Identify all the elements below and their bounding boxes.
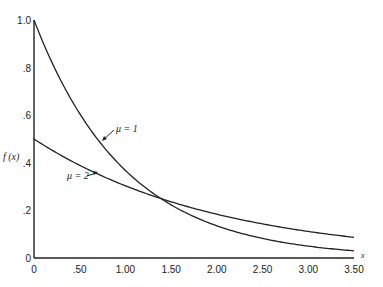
y-tick-label: .6 <box>23 110 32 121</box>
annotation-mu1: μ = 1 <box>115 123 138 134</box>
x-tick-label: 0 <box>31 264 37 275</box>
curve-mu-2 <box>34 139 354 237</box>
y-tick-label: .8 <box>23 63 32 74</box>
annotation-arrows <box>87 130 114 176</box>
y-tick-label: 1.0 <box>17 15 31 26</box>
x-tick-label: 1.50 <box>161 264 181 275</box>
x-tick-label: .50 <box>73 264 87 275</box>
curves <box>34 20 354 251</box>
tick-labels: 0.501.001.502.002.503.003.500.2.4.6.81.0 <box>17 15 364 275</box>
x-tick-label: 2.50 <box>253 264 273 275</box>
x-tick-label: 3.00 <box>299 264 319 275</box>
x-tick-label: 2.00 <box>207 264 227 275</box>
x-axis-label: x <box>360 251 365 260</box>
y-tick-label: .2 <box>23 205 32 216</box>
y-axis-label: f (x) <box>3 151 20 163</box>
axes <box>34 20 354 258</box>
annotation-mu2: μ = 2 <box>66 170 89 181</box>
chart: 0.501.001.502.002.503.003.500.2.4.6.81.0… <box>0 0 383 287</box>
x-tick-label: 3.50 <box>344 264 364 275</box>
curve-mu-1 <box>34 20 354 251</box>
y-tick-label: .4 <box>23 158 32 169</box>
x-tick-label: 1.00 <box>116 264 136 275</box>
y-tick-label: 0 <box>25 253 31 264</box>
